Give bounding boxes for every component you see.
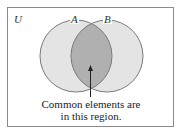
universe-label: U (14, 13, 23, 25)
caption-line-1: Common elements are (42, 98, 141, 110)
set-a-label: A (70, 13, 78, 25)
venn-diagram: U A B Common elements are in this region… (0, 0, 181, 135)
set-b-label: B (104, 13, 111, 25)
caption-line-2: in this region. (61, 110, 122, 122)
